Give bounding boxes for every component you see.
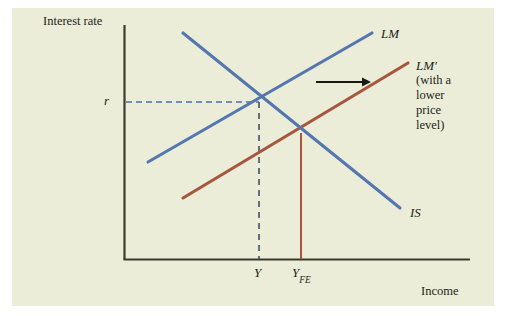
lm-prime-note-line-2: lower <box>416 88 451 103</box>
x-axis-tick-label-y: Y <box>254 265 261 280</box>
is-curve <box>183 33 400 208</box>
lm-prime-curve <box>183 63 408 198</box>
y-axis-title: Interest rate <box>43 14 102 29</box>
lm-prime-note-line-4: level) <box>416 118 451 133</box>
lm-prime-curve-label: LM′ <box>416 58 451 73</box>
figure-root: Interest rate Income LM LM′ (with a lowe… <box>0 0 506 316</box>
lm-prime-mark: ′ <box>434 58 437 73</box>
shift-right-arrow-icon <box>316 78 371 87</box>
x-axis-tick-label-yfe: YFE <box>292 265 311 284</box>
chart-canvas <box>0 0 506 316</box>
lm-prime-label-group: LM′ (with a lower price level) <box>416 58 451 132</box>
lm-prime-base: LM <box>416 58 434 73</box>
is-curve-label: IS <box>410 205 421 220</box>
lm-prime-note-line-3: price <box>416 103 451 118</box>
lm-curve-label: LM <box>381 26 399 41</box>
x-axis-title: Income <box>421 284 458 299</box>
lm-curve <box>148 33 372 162</box>
lm-prime-note-line-1: (with a <box>416 73 451 88</box>
y-axis-tick-label-r: r <box>104 93 109 108</box>
yfe-subscript: FE <box>299 275 311 285</box>
